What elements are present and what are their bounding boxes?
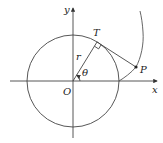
point-p-dot bbox=[134, 65, 137, 68]
p-label: P bbox=[139, 64, 147, 75]
theta-arc bbox=[77, 75, 80, 81]
t-label: T bbox=[93, 27, 101, 38]
origin-label: O bbox=[63, 86, 71, 97]
y-axis-label: y bbox=[63, 4, 70, 15]
involute-diagram: y x O T P r θ bbox=[0, 0, 163, 143]
tangent-segment bbox=[97, 42, 136, 67]
theta-label: θ bbox=[82, 67, 88, 78]
r-label: r bbox=[76, 51, 82, 62]
x-axis-label: x bbox=[152, 84, 158, 95]
